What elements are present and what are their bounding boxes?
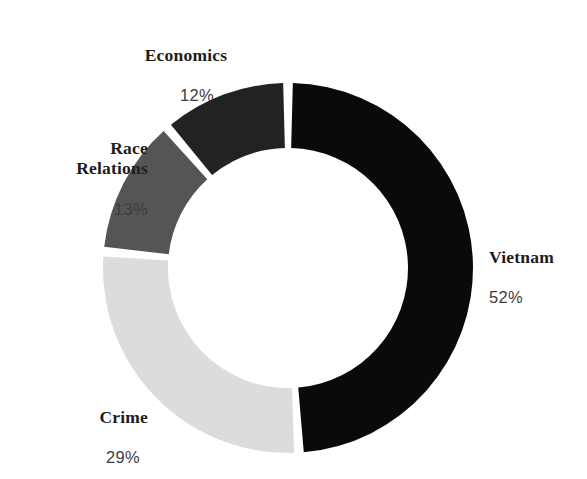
donut-chart-figure: Vietnam 52% Crime 29% Race Relations 13%… bbox=[0, 0, 587, 479]
slice-label-name-crime: Crime bbox=[0, 407, 148, 427]
slice-label-crime: Crime 29% bbox=[0, 388, 148, 479]
slice-label-value-race-relations: 13% bbox=[0, 200, 148, 219]
slice-label-vietnam: Vietnam 52% bbox=[489, 228, 587, 326]
slice-label-race-relations: Race Relations 13% bbox=[0, 119, 148, 237]
slice-label-value-vietnam: 52% bbox=[489, 288, 587, 307]
slice-label-value-economics: 12% bbox=[118, 86, 276, 105]
slice-label-name-economics: Economics bbox=[96, 45, 276, 65]
slice-label-name-vietnam: Vietnam bbox=[489, 247, 587, 267]
slice-label-name-race-relations: Race Relations bbox=[0, 138, 148, 179]
slice-label-economics: Economics 12% bbox=[96, 26, 276, 124]
slice-label-value-crime: 29% bbox=[0, 448, 148, 467]
